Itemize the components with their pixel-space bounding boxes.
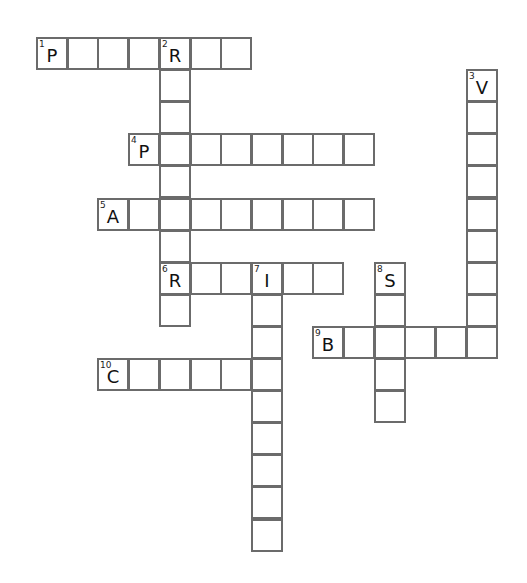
crossword-cell[interactable] — [220, 358, 252, 391]
crossword-cell[interactable] — [466, 294, 498, 327]
crossword-cell[interactable] — [220, 37, 252, 70]
crossword-cell[interactable] — [466, 262, 498, 295]
crossword-cell[interactable] — [159, 294, 191, 327]
crossword-cell[interactable]: 9B — [312, 326, 344, 359]
crossword-cell[interactable] — [190, 358, 222, 391]
cell-letter: C — [99, 366, 127, 388]
crossword-cell[interactable] — [97, 37, 129, 70]
cell-letter: P — [130, 141, 158, 163]
crossword-cell[interactable] — [159, 133, 191, 166]
cell-letter: S — [376, 270, 404, 292]
crossword-cell[interactable] — [128, 198, 160, 231]
crossword-cell[interactable]: 1P — [36, 37, 68, 70]
cell-letter: A — [99, 206, 127, 228]
crossword-cell[interactable] — [466, 133, 498, 166]
crossword-cell[interactable] — [190, 198, 222, 231]
crossword-cell[interactable] — [312, 198, 344, 231]
crossword-cell[interactable] — [251, 486, 283, 519]
crossword-cell[interactable] — [282, 198, 314, 231]
crossword-cell[interactable] — [220, 133, 252, 166]
crossword-cell[interactable] — [251, 326, 283, 359]
crossword-cell[interactable] — [159, 101, 191, 134]
crossword-cell[interactable] — [343, 198, 375, 231]
crossword-cell[interactable] — [374, 294, 406, 327]
crossword-cell[interactable] — [466, 198, 498, 231]
cell-letter: R — [161, 45, 189, 67]
crossword-cell[interactable]: 4P — [128, 133, 160, 166]
crossword-cell[interactable] — [251, 454, 283, 487]
crossword-cell[interactable] — [251, 294, 283, 327]
crossword-cell[interactable] — [251, 133, 283, 166]
crossword-cell[interactable] — [404, 326, 436, 359]
crossword-cell[interactable] — [251, 422, 283, 455]
crossword-cell[interactable] — [466, 165, 498, 198]
crossword-cell[interactable]: 7I — [251, 262, 283, 295]
crossword-cell[interactable]: 2R — [159, 37, 191, 70]
crossword-cell[interactable] — [374, 390, 406, 423]
crossword-cell[interactable] — [251, 358, 283, 391]
crossword-cell[interactable]: 6R — [159, 262, 191, 295]
crossword-cell[interactable] — [128, 37, 160, 70]
crossword-cell[interactable] — [251, 198, 283, 231]
crossword-cell[interactable] — [159, 165, 191, 198]
crossword-cell[interactable]: 3V — [466, 69, 498, 102]
crossword-grid: 1P2R6R3V4P5A7I8S9B10C — [0, 0, 527, 583]
crossword-cell[interactable] — [282, 133, 314, 166]
crossword-cell[interactable] — [190, 37, 222, 70]
crossword-cell[interactable] — [251, 390, 283, 423]
crossword-cell[interactable] — [220, 198, 252, 231]
crossword-cell[interactable] — [159, 69, 191, 102]
cell-letter: R — [161, 270, 189, 292]
cell-letter: P — [38, 45, 66, 67]
crossword-cell[interactable] — [159, 198, 191, 231]
crossword-cell[interactable] — [190, 262, 222, 295]
crossword-cell[interactable] — [466, 230, 498, 263]
crossword-cell[interactable] — [282, 262, 314, 295]
crossword-cell[interactable] — [374, 326, 406, 359]
crossword-cell[interactable]: 5A — [97, 198, 129, 231]
crossword-cell[interactable] — [251, 519, 283, 552]
crossword-cell[interactable] — [466, 101, 498, 134]
crossword-cell[interactable] — [435, 326, 467, 359]
crossword-cell[interactable] — [343, 326, 375, 359]
crossword-cell[interactable] — [312, 133, 344, 166]
crossword-cell[interactable] — [159, 358, 191, 391]
crossword-cell[interactable] — [312, 262, 344, 295]
crossword-cell[interactable] — [67, 37, 99, 70]
crossword-cell[interactable] — [374, 358, 406, 391]
crossword-cell[interactable] — [128, 358, 160, 391]
crossword-cell[interactable]: 10C — [97, 358, 129, 391]
crossword-cell[interactable] — [343, 133, 375, 166]
crossword-cell[interactable] — [466, 326, 498, 359]
crossword-cell[interactable] — [159, 230, 191, 263]
crossword-cell[interactable] — [190, 133, 222, 166]
crossword-cell[interactable] — [220, 262, 252, 295]
cell-letter: B — [314, 334, 342, 356]
cell-letter: V — [468, 77, 496, 99]
crossword-cell[interactable]: 8S — [374, 262, 406, 295]
cell-letter: I — [253, 270, 281, 292]
